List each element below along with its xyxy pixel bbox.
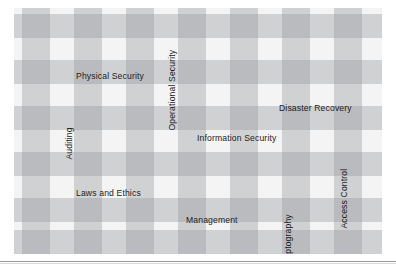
- domain-label-cryptography: Cryptography: [284, 214, 293, 254]
- bottom-divider-line: [0, 261, 396, 262]
- domain-label-laws-and-ethics: Laws and Ethics: [76, 189, 141, 198]
- security-domains-figure: Physical SecurityOperational SecurityDis…: [0, 0, 396, 269]
- plaid-pattern-canvas: Physical SecurityOperational SecurityDis…: [14, 8, 382, 254]
- domain-label-physical-security: Physical Security: [76, 72, 144, 81]
- plaid-horizontal-band-5: [14, 230, 382, 254]
- plaid-horizontal-band-0: [14, 14, 382, 38]
- domain-label-disaster-recovery: Disaster Recovery: [279, 104, 352, 113]
- bottom-divider-line-secondary: [0, 263, 396, 264]
- domain-label-auditing: Auditing: [65, 127, 74, 159]
- plaid-horizontal-band-1: [14, 60, 382, 84]
- domain-label-management: Management: [186, 216, 238, 225]
- domain-label-access-control: Access Control: [340, 169, 349, 229]
- domain-label-operational-security: Operational Security: [168, 50, 177, 131]
- domain-label-information-security: Information Security: [197, 134, 276, 143]
